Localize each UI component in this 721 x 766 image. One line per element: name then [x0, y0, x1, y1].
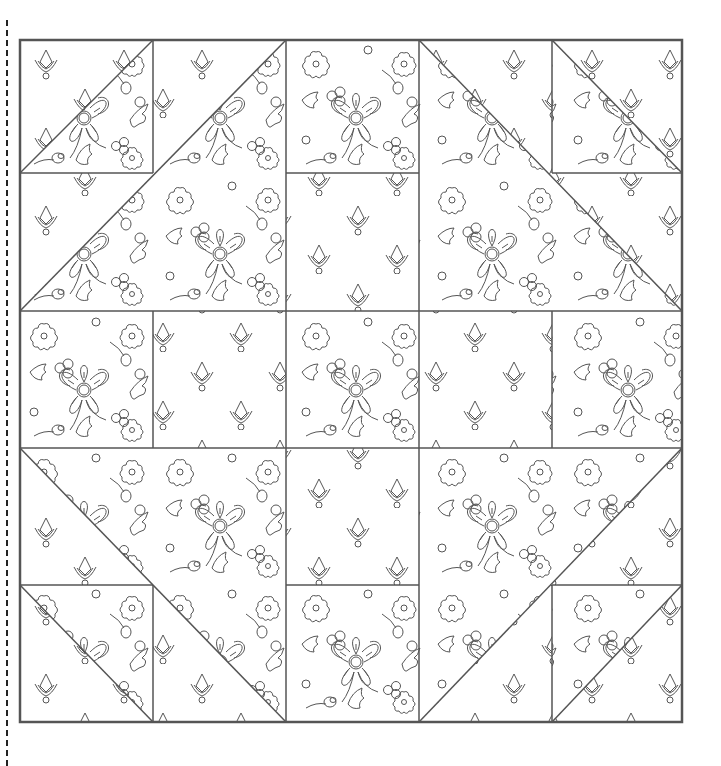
- floral-square-top-center: [286, 40, 419, 173]
- floral-square-mid-right: [552, 311, 682, 448]
- block-pieces: [20, 40, 682, 722]
- motif-square-lower: [286, 448, 419, 585]
- floral-square-center: [286, 311, 419, 448]
- floral-square-bottom-center: [286, 585, 419, 722]
- motif-square-upper: [286, 173, 419, 311]
- floral-square-mid-left: [20, 311, 153, 448]
- quilt-block: [0, 0, 721, 766]
- motif-square-right: [419, 311, 552, 448]
- motif-square-left: [153, 311, 286, 448]
